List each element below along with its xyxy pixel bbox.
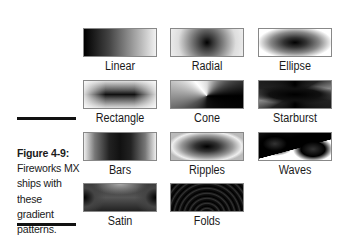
gradient-swatch-ripples: Ripples	[170, 132, 244, 177]
swatch-label: Ellipse	[262, 59, 329, 73]
linear-gradient-preview	[83, 28, 157, 57]
waves-gradient-preview	[258, 132, 332, 161]
swatch-label: Bars	[87, 163, 154, 177]
cone-gradient-preview	[170, 80, 244, 109]
caption-top-rule	[17, 117, 76, 120]
starburst-gradient-preview	[258, 80, 332, 109]
gradient-swatch-radial: Radial	[170, 28, 244, 73]
swatch-label: Cone	[174, 111, 241, 125]
gradient-swatch-ellipse: Ellipse	[258, 28, 332, 73]
gradient-swatch-linear: Linear	[83, 28, 157, 73]
bars-gradient-preview	[83, 132, 157, 161]
swatch-label: Linear	[87, 59, 154, 73]
ellipse-gradient-preview	[258, 28, 332, 57]
gradient-swatch-waves: Waves	[258, 132, 332, 177]
ripples-gradient-preview	[170, 132, 244, 161]
rectangle-gradient-preview	[83, 80, 157, 109]
satin-gradient-preview	[83, 183, 157, 212]
gradient-swatch-starburst: Starburst	[258, 80, 332, 125]
swatch-label: Satin	[87, 214, 154, 228]
swatch-label: Ripples	[174, 163, 241, 177]
radial-gradient-preview	[170, 28, 244, 57]
folds-gradient-preview	[170, 183, 244, 212]
gradient-swatch-satin: Satin	[83, 183, 157, 228]
gradient-swatch-cone: Cone	[170, 80, 244, 125]
swatch-label: Radial	[174, 59, 241, 73]
gradient-swatch-rectangle: Rectangle	[83, 80, 157, 125]
swatch-label: Folds	[174, 214, 241, 228]
swatch-label: Rectangle	[87, 111, 154, 125]
caption-bottom-rule	[17, 223, 76, 226]
swatch-label: Waves	[262, 163, 329, 177]
figure-number: Figure 4-9:	[17, 146, 81, 161]
gradient-swatch-bars: Bars	[83, 132, 157, 177]
swatch-label: Starburst	[262, 111, 329, 125]
gradient-swatch-folds: Folds	[170, 183, 244, 228]
